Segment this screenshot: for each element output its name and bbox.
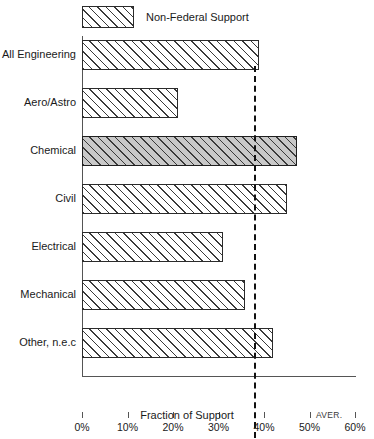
bar-chemical (82, 136, 297, 166)
x-tick-label: 40% (253, 422, 274, 433)
category-label-civil: Civil (0, 193, 76, 204)
bar-other-n-e-c (82, 328, 273, 358)
average-line-label: AVER. (316, 411, 342, 420)
category-label-all-engineering: All Engineering (0, 49, 76, 60)
plot-area: 0%10%20%30%40%50%60% (82, 36, 355, 376)
bar-all-engineering (82, 40, 259, 70)
category-label-chemical: Chemical (0, 145, 76, 156)
x-tick-label: 20% (162, 422, 183, 433)
bar-row (82, 136, 355, 166)
category-label-mechanical: Mechanical (0, 289, 76, 300)
bar-row (82, 328, 355, 358)
bar-row (82, 232, 355, 262)
x-tick-label: 30% (208, 422, 229, 433)
bar-civil (82, 184, 287, 214)
bar-row (82, 40, 355, 70)
x-axis-spine (82, 376, 356, 377)
legend-label-non-federal-support: Non-Federal Support (146, 12, 249, 23)
bar-electrical (82, 232, 223, 262)
x-tick-label: 10% (117, 422, 138, 433)
non-federal-support-bar-chart: Non-Federal Support 0%10%20%30%40%50%60%… (0, 0, 374, 439)
bar-aero-astro (82, 88, 178, 118)
chart-legend: Non-Federal Support (82, 6, 249, 28)
x-tick-label: 60% (344, 422, 365, 433)
category-label-aero-astro: Aero/Astro (0, 97, 76, 108)
category-label-other-n-e-c: Other, n.e.c (0, 337, 76, 348)
x-tick-label: 50% (299, 422, 320, 433)
x-tick-label: 0% (74, 422, 89, 433)
bar-row (82, 88, 355, 118)
legend-swatch-non-federal-support (82, 6, 134, 28)
bar-mechanical (82, 280, 245, 310)
average-dashed-line (254, 66, 256, 438)
bar-row (82, 280, 355, 310)
bar-row (82, 184, 355, 214)
category-label-electrical: Electrical (0, 241, 76, 252)
